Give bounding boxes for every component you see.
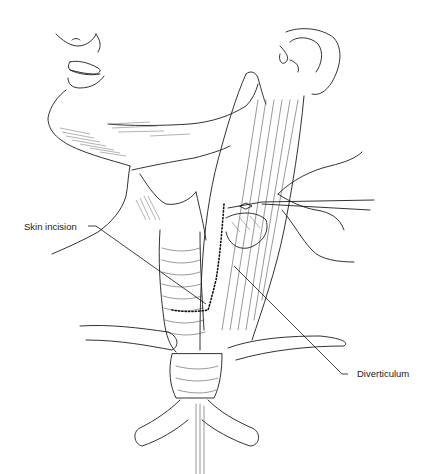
bronchi [135,400,259,474]
incision-dotted-line [172,204,224,312]
face-outline [48,34,258,166]
surgeon-hand-with-forceps [228,152,374,262]
skin-incision-label: Skin incision [24,222,77,232]
anatomical-illustration: Skin incision Diverticulum [0,0,438,474]
clavicles [80,325,346,398]
neck-structures [52,146,230,254]
diverticulum-pouch [226,213,267,248]
trachea [159,230,205,352]
jaw-hatching [60,122,190,156]
sternocleidomastoid-muscle [200,72,304,350]
skin-incision-leader-line [88,226,206,304]
diverticulum-label: Diverticulum [357,369,409,379]
diverticulum-leader-line [234,266,348,374]
neck-dissection-drawing [0,0,438,474]
ear [279,29,339,95]
